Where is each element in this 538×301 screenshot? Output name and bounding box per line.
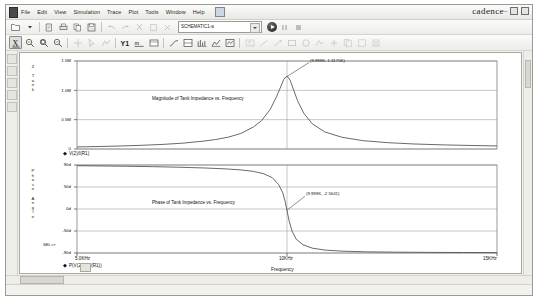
plot-toolbar: Y1 m X T xyxy=(6,35,532,51)
vertical-scrollbar[interactable] xyxy=(523,51,532,275)
minimize-button[interactable]: – xyxy=(504,8,507,15)
plot-title: Magnitude of Tank Impedance vs. Frequenc… xyxy=(152,96,244,101)
toggle-x-axis-icon[interactable]: X xyxy=(9,36,22,49)
cursor-peak-icon[interactable] xyxy=(99,36,112,49)
open-dropdown-icon[interactable] xyxy=(23,21,36,34)
cursor-display-icon[interactable] xyxy=(147,36,160,49)
redo-icon[interactable] xyxy=(119,21,132,34)
menu-item-simulation-label: Simulation xyxy=(73,9,100,15)
svg-text:X: X xyxy=(12,38,18,47)
vertical-scroll-thumb[interactable] xyxy=(525,60,531,88)
save-icon[interactable] xyxy=(85,21,98,34)
cursor-icon[interactable] xyxy=(85,36,98,49)
pause-icon[interactable] xyxy=(278,21,291,34)
simulation-profile-value: SCHEMATIC1-a xyxy=(179,23,214,31)
help-search-icon[interactable] xyxy=(215,7,225,17)
marker-icon[interactable] xyxy=(7,102,17,112)
undo-icon[interactable] xyxy=(105,21,118,34)
plot-graphics xyxy=(20,53,515,274)
zoom-area-icon[interactable] xyxy=(37,36,50,49)
open-file-icon[interactable] xyxy=(9,21,22,34)
simulation-output-icon[interactable] xyxy=(7,54,17,64)
y-axis-title: Z Tank xyxy=(30,65,36,93)
horizontal-scrollbar[interactable] xyxy=(6,275,532,284)
add-trace-y1-icon[interactable]: Y1 xyxy=(119,36,132,49)
toolbar-separator xyxy=(239,38,240,48)
copy-icon[interactable] xyxy=(71,21,84,34)
trace-legend[interactable]: ◆V(2)/I(R1) xyxy=(63,151,89,156)
menu-item-window-label: Window xyxy=(166,9,186,15)
zoom-fit-icon[interactable] xyxy=(51,36,64,49)
menu-item-plot-label: Plot xyxy=(128,9,138,15)
close-button[interactable] xyxy=(521,7,529,15)
performance-analysis-icon[interactable] xyxy=(209,36,222,49)
menu-item-file[interactable]: File xyxy=(20,7,31,17)
log-x-icon[interactable] xyxy=(167,36,180,49)
zoom-out-icon[interactable] xyxy=(23,36,36,49)
probe-plot-canvas[interactable]: 00.5M1.0M1.5MMagnitude of Tank Impedance… xyxy=(19,52,522,274)
menu-item-edit-label: Edit xyxy=(37,9,47,15)
status-bar xyxy=(6,284,532,295)
menu-item-file-label: File xyxy=(21,9,30,15)
pan-icon[interactable] xyxy=(71,36,84,49)
watch-icon[interactable] xyxy=(7,66,17,76)
x-axis-tick-label: 5.0KHz xyxy=(75,256,90,261)
menu-item-tools[interactable]: Tools xyxy=(144,7,159,17)
plot-select-tab[interactable] xyxy=(80,263,91,272)
delete-plot-icon[interactable] xyxy=(369,36,382,49)
x-axis-tick-label: 15KHz xyxy=(483,256,497,261)
label-box-icon[interactable] xyxy=(285,36,298,49)
menu-item-edit[interactable]: Edit xyxy=(36,7,48,17)
x-axis-title: Frequency xyxy=(271,267,294,272)
y-axis-tick-label: -50d xyxy=(49,228,71,233)
toolbar-separator xyxy=(163,38,164,48)
simulation-profile-combobox[interactable]: SCHEMATIC1-a xyxy=(178,21,262,33)
menu-item-simulation[interactable]: Simulation xyxy=(72,7,101,17)
paste-icon[interactable] xyxy=(147,21,160,34)
pspice-probe-window: File Edit View Simulation Trace Plot Too… xyxy=(5,4,533,296)
legend-label: V(2)/I(R1) xyxy=(69,151,89,156)
menu-item-trace[interactable]: Trace xyxy=(106,7,122,17)
y-axis-tick-label: 0d xyxy=(49,206,71,211)
eval-goal-icon[interactable]: m xyxy=(133,36,146,49)
chevron-down-icon[interactable] xyxy=(250,23,260,33)
label-mark-icon[interactable] xyxy=(327,36,340,49)
cursor-trough-icon[interactable] xyxy=(223,36,236,49)
workspace: 00.5M1.0M1.5MMagnitude of Tank Impedance… xyxy=(6,51,532,275)
x-axis-tick-label: 10KHz xyxy=(279,256,293,261)
y-axis-title: Phase Angle xyxy=(30,169,36,220)
run-simulation-button[interactable] xyxy=(267,22,277,32)
horizontal-scroll-thumb[interactable] xyxy=(20,276,64,284)
plot-select-marker: SEL>> xyxy=(43,242,56,247)
label-poly-icon[interactable] xyxy=(313,36,326,49)
label-arrow-icon[interactable] xyxy=(271,36,284,49)
y-axis-tick-label: 1.0M xyxy=(49,88,71,93)
paste-plot-icon[interactable] xyxy=(355,36,368,49)
measurement-icon[interactable] xyxy=(7,90,17,100)
y-axis-tick-label: 90d xyxy=(49,162,71,167)
menu-item-view-label: View xyxy=(54,9,66,15)
delete-icon[interactable] xyxy=(161,21,174,34)
toolbar-separator xyxy=(39,22,40,32)
menu-item-tools-label: Tools xyxy=(145,9,158,15)
plot-title: Phase of Tank Impedance vs. Frequency xyxy=(152,200,235,205)
menu-item-help[interactable]: Help xyxy=(192,7,206,17)
label-text-icon[interactable]: T xyxy=(243,36,256,49)
label-circle-icon[interactable] xyxy=(299,36,312,49)
cut-icon[interactable] xyxy=(133,21,146,34)
menu-item-plot[interactable]: Plot xyxy=(127,7,139,17)
menu-item-help-label: Help xyxy=(193,9,205,15)
fourier-icon[interactable] xyxy=(195,36,208,49)
add-plot-icon[interactable] xyxy=(181,36,194,49)
probe-cursor-icon[interactable] xyxy=(7,78,17,88)
menu-item-view[interactable]: View xyxy=(53,7,67,17)
stop-icon[interactable] xyxy=(292,21,305,34)
print-icon[interactable] xyxy=(57,21,70,34)
print-preview-icon[interactable] xyxy=(43,21,56,34)
plot-annotation: (9.999K, 1.3175K) xyxy=(310,58,345,63)
copy-plot-icon[interactable] xyxy=(341,36,354,49)
label-line-icon[interactable] xyxy=(257,36,270,49)
restore-button[interactable] xyxy=(510,7,518,15)
menu-item-window[interactable]: Window xyxy=(165,7,187,17)
toolbar-separator xyxy=(67,38,68,48)
